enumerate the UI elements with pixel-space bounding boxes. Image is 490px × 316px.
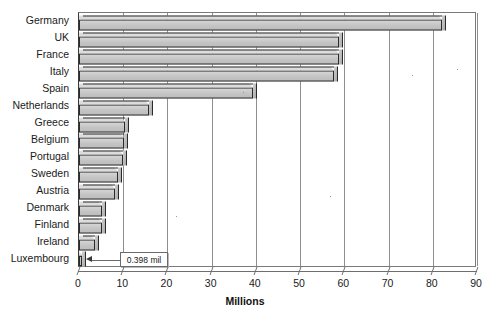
category-label: Portugal: [0, 148, 74, 165]
bar-end-cap: [125, 117, 129, 132]
bar[interactable]: [79, 83, 253, 94]
bar[interactable]: [79, 252, 82, 263]
bar-slot: [79, 131, 475, 148]
x-axis-tick-label: 40: [249, 277, 261, 289]
bar[interactable]: [79, 117, 125, 128]
bar-top-edge: [83, 201, 102, 202]
bar-top-edge: [83, 100, 149, 101]
value-callout[interactable]: 0.398 mil: [120, 252, 168, 267]
bar[interactable]: [79, 185, 115, 196]
plot-area: 0.398 mil: [78, 12, 476, 267]
bar-end-cap: [253, 83, 257, 98]
bar[interactable]: [79, 67, 334, 78]
bar-slot: [79, 47, 475, 64]
callout-leader-line: [91, 260, 120, 261]
bar-slot: [79, 215, 475, 232]
category-axis: GermanyUKFranceItalySpainNetherlandsGree…: [0, 12, 74, 267]
bar-top-edge: [83, 235, 95, 236]
bar-slot: [79, 148, 475, 165]
scan-speck: [330, 196, 331, 197]
bar-end-cap: [102, 201, 106, 216]
x-axis-tick: [475, 267, 479, 275]
bar-end-cap: [102, 218, 106, 233]
bar-end-cap: [115, 185, 119, 200]
category-label: Denmark: [0, 199, 74, 216]
bar-slot: [79, 30, 475, 47]
bar-top-edge: [83, 83, 253, 84]
bar-top-edge: [83, 33, 339, 34]
category-label: UK: [0, 29, 74, 46]
bar-top-edge: [83, 168, 118, 169]
bar[interactable]: [79, 100, 149, 111]
bar-slot: [79, 232, 475, 249]
scan-speck: [176, 216, 177, 217]
bar-end-cap: [124, 134, 128, 149]
bar-slot: [79, 64, 475, 81]
category-label: Netherlands: [0, 97, 74, 114]
x-axis-tick-label: 30: [205, 277, 217, 289]
bar[interactable]: [79, 50, 339, 61]
bar-top-edge: [83, 185, 115, 186]
category-label: Belgium: [0, 131, 74, 148]
bar[interactable]: [79, 235, 95, 246]
bar[interactable]: [79, 134, 124, 145]
category-label: France: [0, 46, 74, 63]
bar-end-cap: [95, 235, 99, 250]
bar-end-cap: [339, 50, 343, 65]
bar-chart: GermanyUKFranceItalySpainNetherlandsGree…: [0, 0, 490, 316]
x-axis-tick-label: 60: [337, 277, 349, 289]
bar-top-edge: [83, 16, 442, 17]
x-axis-title: Millions: [0, 295, 490, 307]
bar[interactable]: [79, 16, 442, 27]
x-axis-tick-label: 20: [161, 277, 173, 289]
bar-end-cap: [334, 67, 338, 82]
bar-top-edge: [83, 67, 334, 68]
scan-speck: [243, 92, 244, 93]
bar-top-edge: [83, 50, 339, 51]
bar-slot: [79, 182, 475, 199]
bar-end-cap: [118, 168, 122, 183]
bar-end-cap: [149, 100, 153, 115]
bar-end-cap: [123, 151, 127, 166]
x-axis-tick-label: 90: [470, 277, 482, 289]
bar-top-edge: [83, 151, 123, 152]
scan-speck: [457, 69, 458, 70]
bar-slot: [79, 13, 475, 30]
x-axis-tick-label: 80: [426, 277, 438, 289]
category-label: Greece: [0, 114, 74, 131]
bar-slot: [79, 114, 475, 131]
bar[interactable]: [79, 201, 102, 212]
bar-slot: [79, 97, 475, 114]
bar[interactable]: [79, 151, 123, 162]
bar-end-cap: [339, 33, 343, 48]
category-label: Germany: [0, 12, 74, 29]
bar-slot: [79, 198, 475, 215]
category-label: Luxembourg: [0, 250, 74, 267]
category-label: Sweden: [0, 165, 74, 182]
bar-top-edge: [83, 134, 124, 135]
bar-top-edge: [83, 117, 125, 118]
bar-top-edge: [83, 218, 102, 219]
x-axis-tick-label: 50: [293, 277, 305, 289]
bar-slot: [79, 80, 475, 97]
x-axis-tick-label: 70: [382, 277, 394, 289]
bar-slot: [79, 165, 475, 182]
category-label: Finland: [0, 216, 74, 233]
x-axis-tick-label: 10: [116, 277, 128, 289]
gridline: [477, 13, 478, 266]
category-label: Austria: [0, 182, 74, 199]
x-axis-tick-label: 0: [75, 277, 81, 289]
bar[interactable]: [79, 168, 118, 179]
bar-end-cap: [442, 16, 446, 31]
scan-speck: [412, 75, 413, 76]
category-label: Spain: [0, 80, 74, 97]
category-label: Ireland: [0, 233, 74, 250]
bar[interactable]: [79, 33, 339, 44]
callout-arrow-icon: [86, 256, 92, 262]
bar[interactable]: [79, 218, 102, 229]
bar-top-face: [79, 252, 83, 256]
x-axis-line: [78, 271, 477, 272]
category-label: Italy: [0, 63, 74, 80]
bars-layer: [79, 13, 475, 266]
